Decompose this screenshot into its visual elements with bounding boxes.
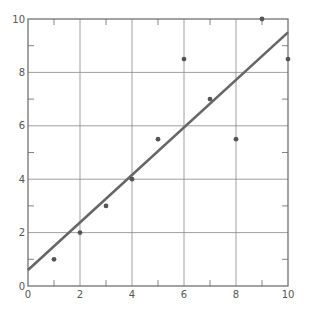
data-point	[182, 57, 187, 62]
x-tick-label: 4	[129, 289, 135, 300]
regression-line	[28, 32, 288, 270]
x-tick-label: 0	[25, 289, 31, 300]
y-axis-tick-labels: 0246810	[12, 14, 25, 292]
scatter-chart: 0246810 0246810	[0, 0, 309, 309]
y-tick-label: 8	[19, 67, 25, 78]
fitted-line	[28, 32, 288, 270]
data-point	[78, 230, 83, 235]
data-point	[234, 137, 239, 142]
data-point	[52, 257, 57, 262]
data-point	[130, 177, 135, 182]
x-axis-tick-labels: 0246810	[25, 289, 295, 300]
y-tick-label: 0	[19, 281, 25, 292]
x-tick-label: 8	[233, 289, 239, 300]
x-tick-label: 2	[77, 289, 83, 300]
y-tick-label: 2	[19, 227, 25, 238]
x-tick-label: 6	[181, 289, 187, 300]
y-tick-label: 6	[19, 120, 25, 131]
x-tick-label: 10	[282, 289, 295, 300]
data-point	[156, 137, 161, 142]
y-tick-label: 10	[12, 14, 25, 25]
data-point	[286, 57, 291, 62]
data-point	[208, 97, 213, 102]
data-point	[104, 204, 109, 209]
data-point	[260, 17, 265, 22]
y-tick-label: 4	[19, 174, 25, 185]
